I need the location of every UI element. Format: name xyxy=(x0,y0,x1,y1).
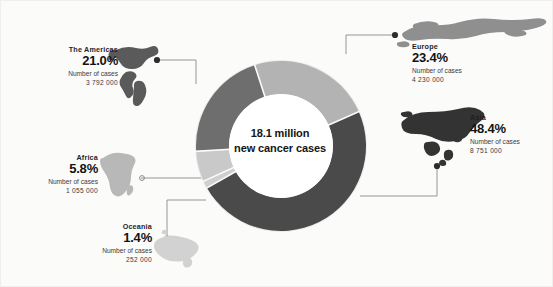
leader-line-oceania xyxy=(167,200,206,237)
callout-asia[interactable]: Asia 48.4% Number of cases 8 751 000 xyxy=(470,113,550,155)
callout-the-americas[interactable]: The Americas 21.0% Number of cases 3 792… xyxy=(40,45,118,87)
callout-cases-value-oceania: 252 000 xyxy=(68,256,152,265)
callout-cases-label-oceania: Number of cases xyxy=(68,247,152,256)
leader-line-europe xyxy=(346,35,394,54)
leader-line-asia xyxy=(360,165,437,196)
callout-europe[interactable]: Europe 23.4% Number of cases 4 230 000 xyxy=(412,42,522,84)
callout-cases-label-africa: Number of cases xyxy=(16,178,98,187)
callout-percent-europe: 23.4% xyxy=(412,51,522,66)
center-total-line1: 18.1 million xyxy=(207,126,353,141)
callout-percent-oceania: 1.4% xyxy=(68,231,152,246)
center-total-text: 18.1 million new cancer cases xyxy=(207,126,353,156)
callout-cases-label-asia: Number of cases xyxy=(470,138,550,147)
leader-dot-americas xyxy=(154,57,160,63)
callout-cases-label-europe: Number of cases xyxy=(412,67,522,76)
callout-cases-value-africa: 1 055 000 xyxy=(16,187,98,196)
callout-africa[interactable]: Africa 5.8% Number of cases 1 055 000 xyxy=(16,153,98,195)
callout-cases-value-europe: 4 230 000 xyxy=(412,76,522,85)
callout-cases-value-the-americas: 3 792 000 xyxy=(40,79,118,88)
callout-percent-asia: 48.4% xyxy=(470,122,550,137)
oceania-map-icon xyxy=(154,230,199,268)
leader-line-americas xyxy=(158,60,196,84)
callout-cases-value-asia: 8 751 000 xyxy=(470,147,550,156)
center-total-line2: new cancer cases xyxy=(207,141,353,156)
leader-dot-europe xyxy=(392,32,398,38)
callout-cases-label-the-americas: Number of cases xyxy=(40,70,118,79)
callout-percent-the-americas: 21.0% xyxy=(40,54,118,69)
callout-percent-africa: 5.8% xyxy=(16,162,98,177)
africa-map-icon xyxy=(100,153,136,197)
callout-oceania[interactable]: Oceania 1.4% Number of cases 252 000 xyxy=(68,222,152,264)
infographic-canvas: 18.1 million new cancer cases The Americ… xyxy=(0,0,553,287)
